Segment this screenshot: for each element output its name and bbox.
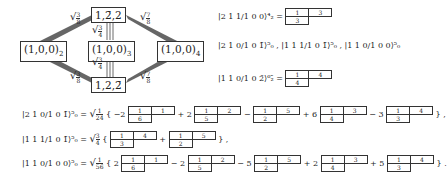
term-coefficient: − 2 [168,159,187,168]
tableau-cell: 6 [122,164,145,172]
node-bottom-label: 1,2,2̄ [95,79,122,91]
prefactor: √156 { [89,159,113,168]
tableau-cell: 4 [321,164,344,172]
tableau-cell: 2 [211,156,234,164]
node-right-sub: 4 [196,50,200,58]
tableau-empty [133,140,156,148]
tableau-cell: 4 [286,79,309,87]
young-tableau: 152 [253,106,300,123]
tableau-cell: 3 [387,115,410,123]
equation-end: } , [433,110,446,119]
tableau-cell: 3 [387,164,410,172]
tableau-cell: 1 [195,107,218,115]
young-tableau: 116 [128,106,175,123]
tableau-cell: 5 [188,164,211,172]
tableau-empty [218,115,241,123]
tableau-cell: 1 [387,156,410,164]
equation-lhs: |1 1 0/1 0 0⟩⁵₀ = [22,159,89,168]
tableau-cell: 1 [286,9,309,17]
young-tableau: 144 [285,70,332,87]
young-tableau: 143 [387,155,434,172]
tableau-empty [277,115,300,123]
tableau-empty [211,164,234,172]
state-3-ket: |1 1 0/1 0 2̄⟩⁶₂̄ [218,74,274,83]
term-coefficient: − 5 [235,159,254,168]
term-coefficient: + 6 [300,110,319,119]
tableau-cell: 3 [343,107,366,115]
tableau-empty [410,164,433,172]
tableau-cell: 1 [321,156,344,164]
node-right: (1,0,0)4 [157,41,204,62]
tableau-cell: 3 [286,17,309,25]
prefactor: √124 { [89,110,113,119]
tableau-empty [151,115,174,123]
tableau-cell: 3 [110,140,133,148]
tableau-cell: 3 [309,9,332,17]
young-tableau: 125 [188,155,235,172]
term-coefficient: 2 [114,159,122,168]
young-tableau: 133 [285,8,332,25]
tableau-cell: 1 [151,107,174,115]
equals-sign: = [276,12,283,21]
term-coefficient: + 5 [368,159,387,168]
tableau-empty [343,115,366,123]
weight-right-bottom: √78 [140,70,150,84]
young-tableau: 143 [386,106,433,123]
tableau-cell: 2 [255,164,278,172]
tableau-cell: 1 [169,132,192,140]
equation-end: } . [434,159,447,168]
state-row-3: |1 1 0/1 0 2̄⟩⁶₂̄ = 144 [218,70,332,87]
state-row-2: |2 1 0/1 0 1̄⟩⁵₀ , |1 1 1/1 0 1̄⟩⁵₀ , |1… [218,40,400,52]
node-left: (1,0,0)2 [20,41,67,62]
weight-right-top: √78 [140,11,150,25]
young-tableau: 152 [169,131,216,148]
node-bottom: 1,2,2̄ [91,77,126,93]
tableau-cell: 2 [218,107,241,115]
weight-center-top: √34 [92,24,102,38]
node-center-label: (1,0,0) [92,43,127,55]
equation-lhs: |1 1 1/1 0 1̄⟩⁵₀ = [22,135,89,144]
weight-center-bottom: √34 [92,56,102,70]
tableau-cell: 4 [309,71,332,79]
prefactor: √34 { [89,135,109,144]
tableau-cell: 5 [278,156,301,164]
tableau-cell: 1 [387,107,410,115]
tableau-cell: 3 [344,156,367,164]
node-top-label: 1,2̄,2 [95,9,122,21]
young-tableau: 134 [321,155,368,172]
tableau-cell: 4 [410,156,433,164]
tableau-cell: 1 [110,132,133,140]
tableau: 133 [285,12,332,21]
node-right-label: (1,0,0) [161,43,196,55]
tableau-cell: 5 [192,132,215,140]
equals-sign: = [276,74,283,83]
weight-left-bottom: √38 [70,70,80,84]
tableau-cell: 1 [122,156,145,164]
term-coefficient: + 2 [301,159,320,168]
tableau: 144 [285,74,332,83]
term-coefficient: −2 [114,110,128,119]
tableau-cell: 4 [410,107,433,115]
young-tableau: 143 [110,131,157,148]
node-left-label: (1,0,0) [24,43,59,55]
state-1-ket: |2 1 1/1 0 0⟩⁴₂ [218,12,274,21]
tableau-empty [278,164,301,172]
term-coefficient: + 2 [175,110,194,119]
tableau-empty [344,164,367,172]
tableau-cell: 2 [254,115,277,123]
tableau-cell: 1 [320,107,343,115]
node-top: 1,2̄,2 [91,7,126,23]
term-coefficient: + [157,135,169,144]
tableau-empty [145,164,168,172]
tableau-cell: 5 [195,115,218,123]
young-tableau: 125 [194,106,241,123]
weight-left-top: √38 [70,11,80,25]
tableau-cell: 6 [128,115,151,123]
tableau-empty [309,79,332,87]
tableau-cell: 1 [254,107,277,115]
tableau-cell: 2 [169,140,192,148]
tableau-empty [309,17,332,25]
equation-2: |1 1 1/1 0 1̄⟩⁵₀ = √34 { 143 + 152 } , [22,131,228,148]
young-tableau: 116 [121,155,168,172]
term-coefficient: − [241,110,253,119]
